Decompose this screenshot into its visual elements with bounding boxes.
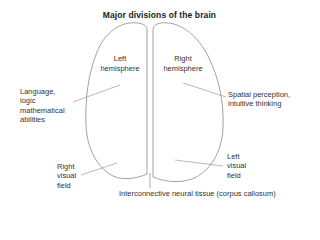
language-annotation: Language, logic mathematical abilities — [20, 87, 65, 124]
spatial-annotation: Spatial perception, intuitive thinking — [228, 90, 290, 109]
left-visual-field-line2: visual — [227, 161, 246, 170]
right-visual-field-line1: Right — [57, 162, 76, 171]
left-hemisphere-outline — [86, 23, 147, 179]
corpus-callosum-annotation: Interconnective neural tissue (corpus ca… — [119, 189, 276, 198]
left-visual-field-annotation: Left visual field — [227, 152, 246, 180]
language-line4: abilities — [20, 115, 65, 124]
spatial-line2: intuitive thinking — [228, 99, 290, 108]
right-visual-field-line3: field — [57, 181, 76, 190]
left-visual-field-line3: field — [227, 171, 246, 180]
language-leader-line — [73, 85, 120, 102]
spatial-line1: Spatial perception, — [228, 90, 290, 99]
language-line2: logic — [20, 96, 65, 105]
language-line3: mathematical — [20, 106, 65, 115]
right-hemisphere-label-line1: Right — [158, 54, 208, 64]
right-hemisphere-outline — [153, 23, 223, 182]
right-hemisphere-label: Right hemisphere — [158, 54, 208, 74]
right-hemisphere-label-line2: hemisphere — [158, 64, 208, 74]
left-hemisphere-label-line1: Left — [96, 54, 144, 64]
right-visual-field-leader-line — [81, 163, 117, 175]
left-visual-field-line1: Left — [227, 152, 246, 161]
left-hemisphere-label: Left hemisphere — [96, 54, 144, 74]
left-hemisphere-label-line2: hemisphere — [96, 64, 144, 74]
right-visual-field-line2: visual — [57, 171, 76, 180]
language-line1: Language, — [20, 87, 65, 96]
right-visual-field-annotation: Right visual field — [57, 162, 76, 190]
left-visual-field-leader-line — [175, 160, 223, 166]
